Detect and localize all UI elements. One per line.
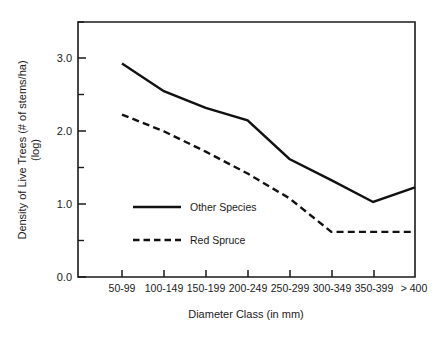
- x-axis-title: Diameter Class (in mm): [188, 308, 304, 320]
- legend-label-red-spruce: Red Spruce: [190, 234, 246, 246]
- x-tick-label-1: 100-149: [145, 282, 184, 294]
- x-tick-label-0: 50-99: [109, 282, 136, 294]
- chart-page: 0.0 1.0 2.0 3.0 Density of Live Trees (#…: [0, 0, 448, 337]
- x-tick-label-5: 300-349: [313, 282, 352, 294]
- y-axis-title-line2: (log): [29, 139, 41, 161]
- y-tick-label-2: 2.0: [57, 125, 72, 137]
- y-tick-label-1: 1.0: [57, 198, 72, 210]
- legend-label-other-species: Other Species: [190, 201, 257, 213]
- x-tick-label-6: 350-399: [355, 282, 394, 294]
- x-tick-label-7: > 400: [401, 282, 428, 294]
- x-tick-label-3: 200-249: [229, 282, 268, 294]
- line-chart: 0.0 1.0 2.0 3.0 Density of Live Trees (#…: [0, 0, 448, 337]
- x-tick-label-4: 250-299: [271, 282, 310, 294]
- y-tick-label-3: 3.0: [57, 52, 72, 64]
- x-tick-label-2: 150-199: [187, 282, 226, 294]
- y-tick-label-0: 0.0: [57, 271, 72, 283]
- y-axis-title-line1: Density of Live Trees (# of stems/ha): [16, 60, 28, 239]
